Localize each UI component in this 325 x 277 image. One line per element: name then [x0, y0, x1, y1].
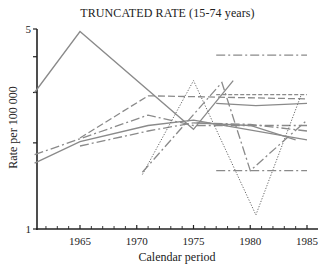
line-chart: 1519651970197519801985	[0, 0, 325, 277]
x-tick-label: 1985	[296, 235, 319, 247]
y-tick-label: 5	[26, 23, 32, 35]
y-tick-label: 1	[26, 223, 32, 235]
series-1-line	[35, 32, 234, 130]
x-tick-label: 1965	[69, 235, 92, 247]
series-group	[35, 32, 307, 215]
series-3-line	[35, 115, 307, 155]
x-tick-label: 1970	[126, 235, 149, 247]
series-6-line	[142, 81, 301, 215]
x-tick-label: 1980	[239, 235, 262, 247]
series-2-line	[80, 96, 307, 138]
axes: 1519651970197519801985	[26, 23, 319, 247]
x-tick-label: 1975	[183, 235, 206, 247]
